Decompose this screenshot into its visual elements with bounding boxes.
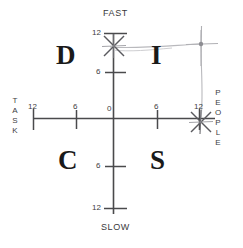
disc-quadrant-chart: FAST SLOW T A S K P E O P L E 12 6 6 12 … [0,0,243,248]
task-letter-s: S [10,116,20,126]
axis-label-task: T A S K [10,96,20,136]
people-axis-marker [189,110,213,134]
chart-axes-layer [0,0,243,248]
plot-point-dot [199,42,203,46]
axis-label-people: P E O P L E [213,88,223,148]
axis-label-fast: FAST [103,8,128,18]
quadrant-label-c: C [58,147,78,174]
axis-label-slow: SLOW [101,222,130,232]
y-tick-label-top-12: 12 [92,28,101,37]
task-letter-t: T [10,96,20,106]
quadrant-label-d: D [56,42,76,69]
quadrant-label-s: S [150,147,165,174]
people-letter-e1: E [213,98,223,108]
y-tick-label-top-6: 6 [96,67,100,76]
horizontal-plot-line-secondary [112,48,172,51]
task-letter-a: A [10,106,20,116]
people-letter-o: O [213,108,223,118]
fast-axis-marker [102,34,126,58]
x-tick-label-right-12: 12 [194,102,203,111]
people-letter-e2: E [213,138,223,148]
x-tick-label-right-6: 6 [154,102,158,111]
y-tick-label-bottom-6: 6 [96,161,100,170]
y-tick-label-bottom-12: 12 [92,203,101,212]
people-letter-l: L [213,128,223,138]
quadrant-label-i: I [151,42,162,69]
people-letter-p2: P [213,118,223,128]
x-tick-label-origin: 0 [107,104,111,113]
x-tick-label-left-12: 12 [28,102,37,111]
x-tick-label-left-6: 6 [73,102,77,111]
task-letter-k: K [10,126,20,136]
people-letter-p1: P [213,88,223,98]
